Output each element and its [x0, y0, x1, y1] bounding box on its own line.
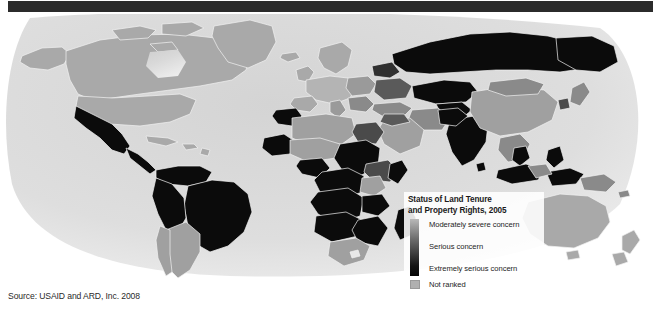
country-tasmania: [566, 250, 580, 260]
country-new-zealand: [622, 230, 640, 254]
world-map: [0, 14, 659, 282]
country-korea: [558, 98, 570, 110]
legend-title-line-2: and Property Rights, 2005: [408, 206, 540, 217]
country-new-zealand-south: [612, 252, 628, 266]
legend-label-serious: Serious concern: [429, 242, 483, 251]
legend-label-not-ranked: Not ranked: [429, 280, 466, 289]
legend-label-moderately-severe: Moderately severe concern: [429, 220, 519, 229]
legend-title-line-1: Status of Land Tenure: [408, 195, 540, 206]
legend-swatch-not-ranked: [410, 280, 420, 289]
map-figure-page: Status of Land Tenure and Property Right…: [0, 0, 659, 309]
legend-title: Status of Land Tenure and Property Right…: [408, 195, 540, 216]
legend-label-extremely-serious: Extremely serious concern: [429, 264, 517, 273]
source-note: Source: USAID and ARD, Inc. 2008: [8, 291, 140, 301]
map-legend: Status of Land Tenure and Property Right…: [404, 192, 544, 292]
header-rule: [8, 1, 653, 12]
world-map-svg: [0, 14, 659, 282]
legend-gradient-bar: [410, 219, 419, 276]
country-sri-lanka: [476, 162, 486, 172]
